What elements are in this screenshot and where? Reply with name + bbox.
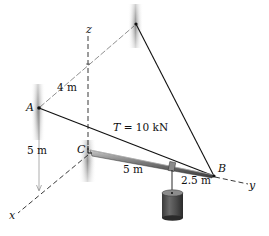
point-b-label: B [217,162,226,175]
y-axis [215,177,248,184]
point-a [37,106,41,110]
dimension-line-4m [40,26,134,107]
dimension-label-4m: 4 m [57,81,77,93]
z-axis-label: z [85,23,92,36]
cable-top-to-b [136,24,214,176]
dimension-label-5m-vertical: 5 m [27,144,47,156]
dimension-label-5m-boom: 5 m [123,163,143,175]
y-axis-label: y [248,179,256,192]
wall-support-top [128,4,143,48]
x-axis-label: x [9,209,16,222]
tension-label: T = 10 kN [113,121,168,134]
point-a-label: A [25,101,34,114]
x-axis [18,155,88,213]
point-c-label: C [77,143,86,156]
cylinder-weight [162,190,183,221]
point-b [212,174,215,177]
dimension-label-2-5m: 2.5 m [181,174,211,186]
point-top-anchor [134,22,137,25]
statics-diagram: z x y A B C 4 m 5 m 5 m 2.5 m T = 10 kN [0,0,269,236]
